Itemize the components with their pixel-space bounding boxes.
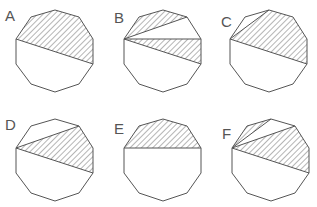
- shaded-region: [230, 10, 307, 64]
- shaded-region: [124, 119, 201, 148]
- shaded-region: [16, 126, 93, 173]
- option-label-d: D: [5, 117, 16, 132]
- option-label-b: B: [114, 10, 124, 25]
- decagon-options-diagram: A B C D E F: [0, 0, 317, 207]
- decagon-option-b: [124, 10, 201, 92]
- decagon-option-d: [16, 119, 93, 201]
- decagon-option-c: [230, 10, 307, 92]
- option-label-e: E: [114, 121, 124, 136]
- diagram-canvas: [0, 0, 317, 207]
- decagon-option-a: [16, 10, 93, 92]
- decagon-option-f: [232, 119, 309, 201]
- option-label-a: A: [5, 8, 15, 23]
- decagon-option-e: [124, 119, 201, 201]
- shaded-region: [16, 10, 93, 64]
- option-label-f: F: [222, 126, 231, 141]
- option-label-c: C: [221, 14, 232, 29]
